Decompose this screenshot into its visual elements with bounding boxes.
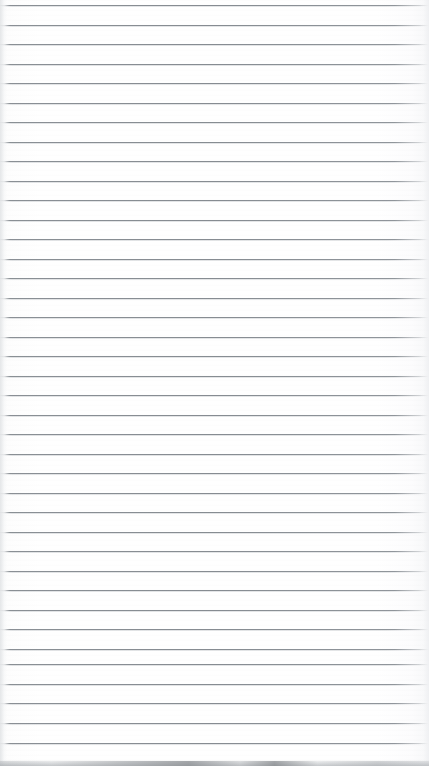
ruled-line xyxy=(0,317,429,318)
ruled-line xyxy=(0,181,429,182)
ruled-line xyxy=(0,278,429,279)
ruled-line xyxy=(0,103,429,104)
ruled-line xyxy=(0,649,429,650)
ruled-line xyxy=(0,532,429,533)
ruled-line xyxy=(0,551,429,552)
ruled-line xyxy=(0,161,429,162)
ruled-line xyxy=(0,473,429,474)
ruled-line xyxy=(0,395,429,396)
ruled-line xyxy=(0,434,429,435)
ruled-line xyxy=(0,200,429,201)
ruled-line xyxy=(0,664,429,665)
ruled-line xyxy=(0,571,429,572)
ruled-line xyxy=(0,743,429,744)
ruled-line xyxy=(0,590,429,591)
ruled-line xyxy=(0,83,429,84)
ruled-line xyxy=(0,493,429,494)
ruled-line xyxy=(0,44,429,45)
scanned-lined-paper-page xyxy=(0,0,429,766)
ruled-line xyxy=(0,25,429,26)
ruled-line xyxy=(0,142,429,143)
ruled-line xyxy=(0,684,429,685)
ruled-lines-group xyxy=(0,0,429,766)
ruled-line xyxy=(0,512,429,513)
ruled-line xyxy=(0,356,429,357)
ruled-line xyxy=(0,298,429,299)
ruled-line xyxy=(0,259,429,260)
ruled-line xyxy=(0,629,429,630)
ruled-line xyxy=(0,337,429,338)
ruled-line xyxy=(0,415,429,416)
ruled-line xyxy=(0,376,429,377)
ruled-line xyxy=(0,122,429,123)
ruled-line xyxy=(0,5,429,6)
ruled-line xyxy=(0,454,429,455)
ruled-line xyxy=(0,64,429,65)
ruled-line xyxy=(0,239,429,240)
ruled-line xyxy=(0,703,429,704)
ruled-line xyxy=(0,723,429,724)
ruled-line xyxy=(0,220,429,221)
ruled-line xyxy=(0,610,429,611)
